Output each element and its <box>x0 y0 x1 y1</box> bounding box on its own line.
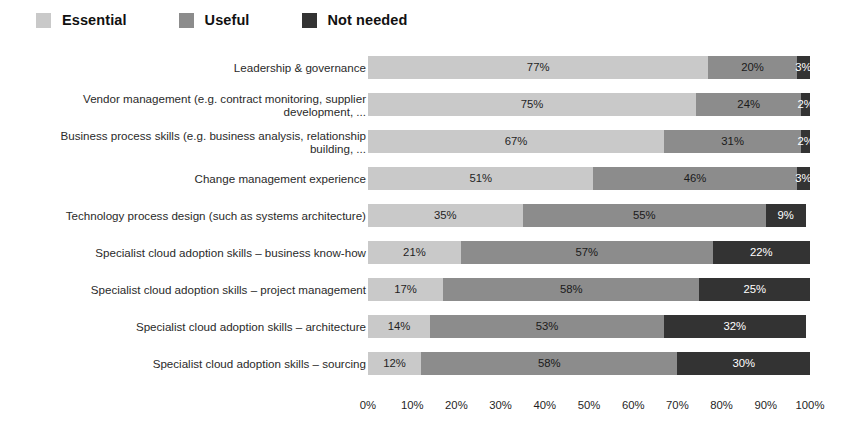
bar-segment-useful[interactable]: 20% <box>708 56 796 79</box>
x-axis-tick-label: 30% <box>489 399 512 411</box>
bar-value-label: 35% <box>434 210 457 221</box>
chart-row: Vendor management (e.g. contract monitor… <box>0 93 841 116</box>
x-axis-tick-label: 100% <box>796 399 825 411</box>
bar-segment-notneeded[interactable]: 2% <box>801 93 810 116</box>
legend-item-useful[interactable]: Useful <box>179 12 250 28</box>
chart-row: Specialist cloud adoption skills – archi… <box>0 315 841 338</box>
bar-segment-essential[interactable]: 21% <box>368 241 461 264</box>
bar-value-label: 2% <box>797 99 813 110</box>
bar-value-label: 31% <box>721 136 744 147</box>
bar-segment-notneeded[interactable]: 32% <box>664 315 805 338</box>
category-label: Specialist cloud adoption skills – sourc… <box>26 357 366 371</box>
bar-segment-essential[interactable]: 35% <box>368 204 523 227</box>
bar-segment-notneeded[interactable]: 22% <box>713 241 810 264</box>
bar-segment-useful[interactable]: 58% <box>443 278 699 301</box>
bar-value-label: 20% <box>741 62 764 73</box>
stacked-bar: 67%31%2% <box>368 130 810 153</box>
chart-row: Technology process design (such as syste… <box>0 204 841 227</box>
bar-value-label: 2% <box>797 136 813 147</box>
category-label: Specialist cloud adoption skills – proje… <box>26 283 366 297</box>
bar-segment-essential[interactable]: 67% <box>368 130 664 153</box>
bar-value-label: 57% <box>575 247 598 258</box>
category-label: Business process skills (e.g. business a… <box>26 128 366 155</box>
bar-segment-essential[interactable]: 77% <box>368 56 708 79</box>
stacked-bar: 17%58%25% <box>368 278 810 301</box>
bar-segment-useful[interactable]: 55% <box>523 204 766 227</box>
category-label: Technology process design (such as syste… <box>26 209 366 223</box>
bar-segment-notneeded[interactable]: 2% <box>801 130 810 153</box>
chart-plot-area: Leadership & governance77%20%3%Vendor ma… <box>0 56 841 389</box>
chart-row: Change management experience51%46%3% <box>0 167 841 190</box>
x-axis-tick-label: 10% <box>401 399 424 411</box>
category-label: Specialist cloud adoption skills – busin… <box>26 246 366 260</box>
bar-value-label: 9% <box>778 210 794 221</box>
x-axis-tick-label: 40% <box>533 399 556 411</box>
category-label: Leadership & governance <box>26 61 366 75</box>
bar-value-label: 25% <box>743 284 766 295</box>
bar-segment-useful[interactable]: 31% <box>664 130 801 153</box>
bar-value-label: 58% <box>560 284 583 295</box>
x-axis-tick-label: 90% <box>754 399 777 411</box>
category-label: Vendor management (e.g. contract monitor… <box>26 91 366 118</box>
bar-value-label: 51% <box>469 173 492 184</box>
bar-segment-essential[interactable]: 12% <box>368 352 421 375</box>
bar-value-label: 21% <box>403 247 426 258</box>
bar-segment-essential[interactable]: 75% <box>368 93 696 116</box>
x-axis-tick-label: 60% <box>622 399 645 411</box>
bar-segment-useful[interactable]: 24% <box>696 93 801 116</box>
bar-value-label: 75% <box>521 99 544 110</box>
x-axis-tick-label: 50% <box>578 399 601 411</box>
chart-row: Business process skills (e.g. business a… <box>0 130 841 153</box>
legend-swatch-useful <box>179 13 194 28</box>
legend-item-essential[interactable]: Essential <box>36 12 127 28</box>
legend-item-notneeded[interactable]: Not needed <box>302 12 408 28</box>
x-axis-tick-label: 70% <box>666 399 689 411</box>
x-axis-tick-label: 0% <box>360 399 376 411</box>
legend-label-essential: Essential <box>62 12 127 28</box>
bar-value-label: 58% <box>538 358 561 369</box>
bar-segment-useful[interactable]: 53% <box>430 315 664 338</box>
stacked-bar: 77%20%3% <box>368 56 810 79</box>
bar-segment-useful[interactable]: 58% <box>421 352 677 375</box>
bar-segment-essential[interactable]: 14% <box>368 315 430 338</box>
stacked-bar: 14%53%32% <box>368 315 810 338</box>
stacked-bar-chart: Leadership & governance77%20%3%Vendor ma… <box>0 56 841 428</box>
bar-value-label: 53% <box>536 321 559 332</box>
bar-value-label: 67% <box>505 136 528 147</box>
x-axis-tick-label: 20% <box>445 399 468 411</box>
x-axis: 0%10%20%30%40%50%60%70%80%90%100% <box>368 399 810 419</box>
category-label: Specialist cloud adoption skills – archi… <box>26 320 366 334</box>
chart-legend: EssentialUsefulNot needed <box>36 12 459 28</box>
bar-value-label: 32% <box>724 321 747 332</box>
bar-segment-notneeded[interactable]: 25% <box>699 278 810 301</box>
bar-segment-notneeded[interactable]: 3% <box>797 167 810 190</box>
bar-value-label: 55% <box>633 210 656 221</box>
bar-value-label: 3% <box>795 173 811 184</box>
bar-value-label: 22% <box>750 247 773 258</box>
bar-segment-notneeded[interactable]: 9% <box>766 204 806 227</box>
bar-segment-essential[interactable]: 51% <box>368 167 593 190</box>
bar-value-label: 3% <box>795 62 811 73</box>
bar-segment-notneeded[interactable]: 30% <box>677 352 810 375</box>
stacked-bar: 21%57%22% <box>368 241 810 264</box>
legend-swatch-notneeded <box>302 13 317 28</box>
stacked-bar: 75%24%2% <box>368 93 810 116</box>
bar-value-label: 77% <box>527 62 550 73</box>
bar-segment-useful[interactable]: 57% <box>461 241 713 264</box>
bar-value-label: 24% <box>737 99 760 110</box>
bar-segment-essential[interactable]: 17% <box>368 278 443 301</box>
bar-segment-notneeded[interactable]: 3% <box>797 56 810 79</box>
bar-value-label: 17% <box>394 284 417 295</box>
legend-label-notneeded: Not needed <box>328 12 408 28</box>
x-axis-tick-label: 80% <box>710 399 733 411</box>
stacked-bar: 51%46%3% <box>368 167 810 190</box>
bar-value-label: 46% <box>684 173 707 184</box>
bar-value-label: 12% <box>383 358 406 369</box>
stacked-bar: 35%55%9% <box>368 204 810 227</box>
chart-row: Leadership & governance77%20%3% <box>0 56 841 79</box>
stacked-bar: 12%58%30% <box>368 352 810 375</box>
legend-label-useful: Useful <box>205 12 250 28</box>
bar-value-label: 14% <box>388 321 411 332</box>
bar-value-label: 30% <box>732 358 755 369</box>
bar-segment-useful[interactable]: 46% <box>593 167 796 190</box>
